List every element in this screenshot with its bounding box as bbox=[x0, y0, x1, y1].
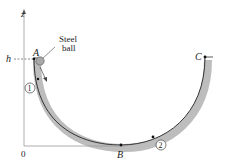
point-a bbox=[33, 58, 36, 61]
z-axis-label: z bbox=[20, 9, 25, 19]
point-2 bbox=[152, 136, 155, 139]
origin-label: 0 bbox=[21, 149, 26, 159]
track-band bbox=[37, 60, 208, 148]
height-label: h bbox=[6, 53, 11, 64]
point-c bbox=[204, 56, 207, 59]
point-1 bbox=[37, 78, 39, 80]
ball-label-line2: ball bbox=[62, 43, 76, 53]
position-1-label: 1 bbox=[28, 84, 32, 93]
point-b bbox=[120, 144, 123, 147]
ball-leader-line bbox=[43, 47, 55, 58]
position-2-label: 2 bbox=[159, 141, 163, 150]
steel-ball bbox=[36, 57, 44, 65]
point-c-label: C bbox=[195, 51, 202, 62]
point-a-label: A bbox=[32, 47, 40, 58]
physics-diagram: z 0 h A Steel ball 1 B 2 C bbox=[0, 0, 227, 167]
motion-arrow-head-icon bbox=[43, 77, 47, 82]
point-b-label: B bbox=[117, 149, 123, 160]
